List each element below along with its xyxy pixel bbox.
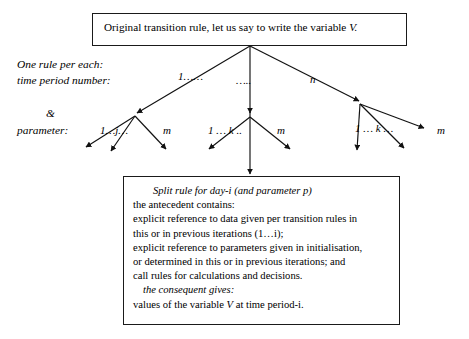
top-rule-text-prefix: Original transition rule, let us say to … [104, 21, 349, 33]
group-label-first: 1…j… [100, 124, 128, 136]
label-parameter: parameter: [17, 123, 68, 137]
split-rule-box: Split rule for day-i (and parameter p) t… [123, 176, 400, 325]
top-rule-box: Original transition rule, let us say to … [92, 13, 407, 46]
label-one-rule-per-each: One rule per each: [17, 57, 103, 71]
split-rule-line-7: values of the variable V at time period-… [133, 298, 394, 312]
split-rule-line-2: explicit reference to data given per tra… [133, 212, 394, 226]
branch-label-middle: ….. [236, 74, 251, 86]
split-rule-line-6: call rules for calculations and decision… [133, 269, 394, 283]
split-rule-line-5: or determined in this or in previous ite… [133, 255, 394, 269]
branch-label-first: 1…… [178, 70, 203, 82]
split-rule-line-7-prefix: values of the variable [133, 299, 227, 310]
split-rule-line-1: the antecedent contains: [133, 198, 394, 212]
split-rule-line-3: this or in previous iterations (1…i); [133, 227, 394, 241]
group-label-middle: 1 … k .. [208, 124, 242, 136]
split-rule-consequent-label: the consequent gives: [133, 283, 394, 297]
group-label-last-m: m [437, 124, 445, 136]
split-rule-line-7-suffix: at time period-i. [233, 299, 304, 310]
branch-label-last: n [310, 73, 316, 85]
label-time-period-number: time period number: [17, 73, 111, 87]
label-ampersand: & [46, 106, 55, 120]
split-rule-title: Split rule for day-i (and parameter p) [133, 184, 394, 198]
diagram-canvas: Original transition rule, let us say to … [0, 0, 469, 339]
group-label-first-m: m [163, 124, 171, 136]
split-rule-line-4: explicit reference to parameters given i… [133, 241, 394, 255]
top-rule-variable: V. [349, 21, 357, 33]
leaf-edge-g1-c [135, 116, 166, 149]
split-rule-body: Split rule for day-i (and parameter p) t… [133, 184, 394, 312]
group-label-middle-m: m [277, 124, 285, 136]
top-rule-text: Original transition rule, let us say to … [104, 20, 357, 34]
branch-edge-last [250, 46, 359, 101]
group-label-last: 1 … k … [355, 122, 393, 134]
